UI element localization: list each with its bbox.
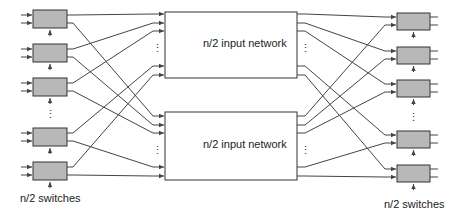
wire [67,14,164,15]
wire [67,23,164,49]
wire [67,66,164,133]
wire [67,31,164,83]
bottom-net-out-ellipsis: ⋮ [300,144,311,156]
wire [67,175,164,176]
bottom-network-label: n/2 input network [203,138,287,150]
wire [67,75,164,167]
left-ellipsis: ⋮ [45,108,56,120]
bottom-net-in-ellipsis: ⋮ [152,144,163,156]
switching-network-diagram: ⋮⋮⋮⋮⋮⋮ n/2 input network n/2 input netwo… [0,0,460,217]
right-switch-3 [397,131,430,148]
wire [297,14,396,17]
left-switch-3 [33,128,67,146]
wire [297,66,396,135]
wire [297,143,396,167]
wire [297,31,396,84]
right-switch-1 [397,47,430,64]
top-network-label: n/2 input network [203,37,287,49]
diagram-canvas: ⋮⋮⋮⋮⋮⋮ [0,0,460,217]
right-ellipsis: ⋮ [408,111,419,123]
right-switch-0 [397,13,430,30]
wire [297,23,396,51]
left-switch-1 [33,44,67,62]
left-switch-4 [33,162,67,180]
top-net-in-ellipsis: ⋮ [152,42,163,54]
left-switches-label: n/2 switches [20,192,81,204]
wire [297,92,396,133]
right-switch-4 [397,165,430,182]
top-net-out-ellipsis: ⋮ [300,42,311,54]
wire [67,57,164,125]
wire [67,141,164,167]
wire [297,176,396,177]
right-switches-label: n/2 switches [384,198,445,210]
right-switch-2 [397,80,430,97]
left-switch-2 [33,78,67,96]
left-switch-0 [33,10,67,28]
